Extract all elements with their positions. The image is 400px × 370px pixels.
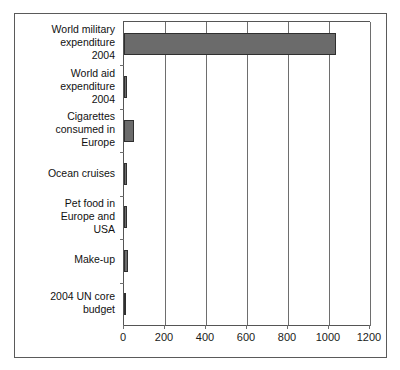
bar [124,76,127,98]
bar-row [124,283,370,326]
category-label: Ocean cruises [23,167,115,180]
bar-row [124,109,370,152]
x-tick-800 [287,325,288,329]
category-label: World military expenditure 2004 [23,23,115,62]
figure: World military expenditure 2004World aid… [0,0,400,370]
x-tick-400 [205,325,206,329]
x-tick-0 [123,325,124,329]
bar-group [124,22,370,326]
chart-frame: World military expenditure 2004World aid… [14,13,387,358]
cropped-header-text [0,0,400,13]
x-tick-label: 1200 [344,331,394,343]
bar-row [124,152,370,195]
category-label: Cigarettes consumed in Europe [23,110,115,149]
x-tick-1000 [328,325,329,329]
bar-row [124,196,370,239]
bar [124,293,126,315]
bar [124,250,128,272]
plot-area [123,21,370,326]
category-label: Make-up [23,253,115,266]
bar [124,163,127,185]
category-label: Pet food in Europe and USA [23,197,115,236]
plot-wrapper: World military expenditure 2004World aid… [15,14,388,359]
bar [124,120,134,142]
bar-row [124,239,370,282]
x-tick-600 [246,325,247,329]
bar [124,206,127,228]
bar-row [124,22,370,65]
bar [124,33,336,55]
bar-row [124,65,370,108]
x-tick-200 [164,325,165,329]
category-label: World aid expenditure 2004 [23,67,115,106]
x-tick-1200 [369,325,370,329]
gridline-1200 [370,22,371,326]
category-label: 2004 UN core budget [23,290,115,316]
